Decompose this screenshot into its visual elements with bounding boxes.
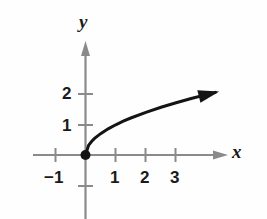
sqrt-curve xyxy=(86,92,216,155)
origin-point-marker xyxy=(81,150,91,160)
x-tick-label--1: −1 xyxy=(44,169,63,186)
curve-arrowhead xyxy=(197,90,219,103)
y-axis-arrowhead xyxy=(81,41,90,56)
x-axis-label: x xyxy=(232,142,242,161)
x-axis-arrowhead xyxy=(213,151,228,160)
y-tick-label-1: 1 xyxy=(62,117,71,134)
x-tick-label-3: 3 xyxy=(170,169,179,186)
x-tick-label-1: 1 xyxy=(110,169,119,186)
coordinate-plane xyxy=(0,0,267,219)
y-tick-label-2: 2 xyxy=(62,85,71,102)
x-tick-label-2: 2 xyxy=(140,169,149,186)
y-axis-label: y xyxy=(79,12,87,31)
graph-figure: y x −1 1 2 3 1 2 xyxy=(0,0,267,219)
